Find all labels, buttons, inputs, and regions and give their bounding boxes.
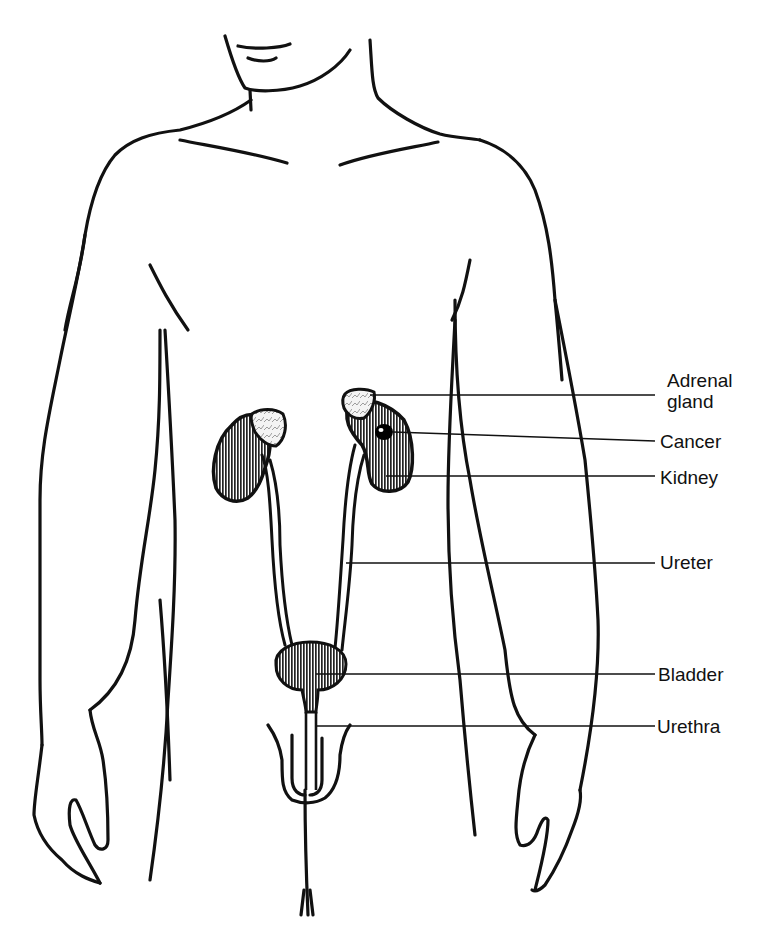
bladder (276, 642, 346, 712)
body-illustration (0, 0, 772, 947)
anatomy-diagram: Adrenal gland Cancer Kidney Ureter Bladd… (0, 0, 772, 947)
tumor (375, 424, 393, 440)
genital-outline (268, 725, 350, 803)
label-cancer: Cancer (660, 431, 721, 452)
label-ureter: Ureter (660, 552, 713, 573)
urethra (306, 712, 316, 790)
head-outline (225, 36, 480, 140)
label-adrenal-gland: Adrenal gland (667, 370, 733, 412)
ureters (262, 445, 364, 650)
label-bladder: Bladder (658, 664, 724, 685)
label-urethra: Urethra (657, 716, 720, 737)
label-kidney: Kidney (660, 467, 718, 488)
